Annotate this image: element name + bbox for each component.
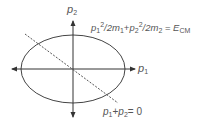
energy-equation-label: p12/2m1+p22/2m2 = ECM	[91, 21, 190, 34]
eq-equals: =	[162, 22, 173, 33]
line-equals-zero: = 0	[128, 106, 142, 117]
eq-ecm-sub: CM	[179, 27, 190, 34]
eq-p1-sub: 1	[96, 27, 100, 34]
momentum-line-label: p1+p2= 0	[103, 107, 142, 118]
eq-2m2: /2m	[143, 22, 159, 33]
p1-axis-label: p1	[138, 63, 148, 75]
p1-sub: 1	[144, 68, 148, 75]
diagram-graphics	[0, 0, 210, 123]
p2-sub: 2	[73, 9, 77, 16]
eq-2m1: /2m	[104, 22, 120, 33]
eq-p2-sub: 2	[135, 27, 139, 34]
p2-axis-label: p2	[67, 4, 77, 16]
phase-space-diagram: p2 p1 p12/2m1+p22/2m2 = ECM p1+p2= 0	[0, 0, 210, 123]
